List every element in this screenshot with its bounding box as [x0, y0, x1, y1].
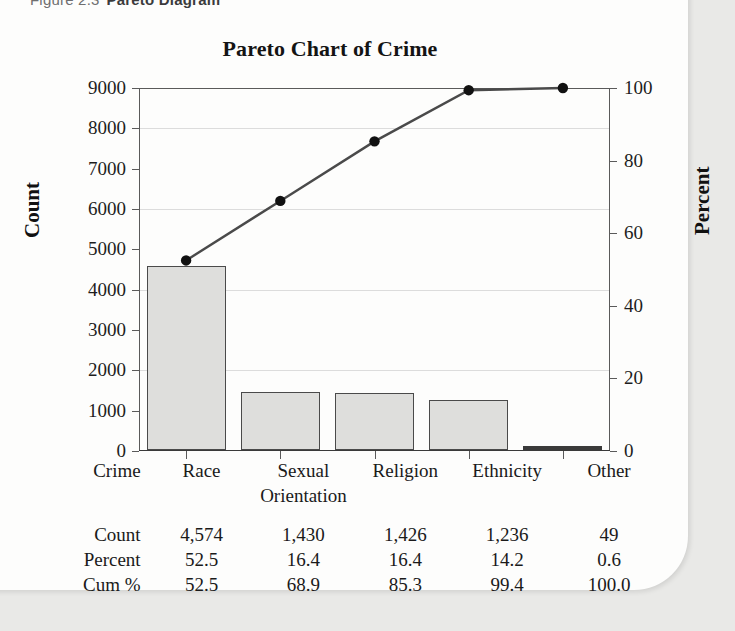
cumulative-marker — [181, 255, 191, 265]
y-tick-label-left: 9000 — [52, 77, 126, 99]
category-line1-4: Other — [558, 458, 660, 483]
y-axis-title-percent: Percent — [690, 167, 715, 235]
y-tick-right — [610, 378, 617, 379]
figure-title: Pareto Diagram — [107, 0, 221, 8]
row-label-percent: Percent — [0, 547, 151, 572]
table-row-count: Count 4,574 1,430 1,426 1,236 49 — [0, 522, 660, 547]
y-tick-left — [132, 370, 139, 371]
cumulative-line-path — [186, 88, 563, 260]
percent-cell-0: 52.5 — [151, 547, 253, 572]
cum-cell-0: 52.5 — [151, 572, 253, 597]
category-cell-3: Ethnicity — [456, 458, 558, 508]
y-tick-right — [610, 451, 617, 452]
cum-cell-4: 100.0 — [558, 572, 660, 597]
plot-area — [139, 88, 610, 451]
y-tick-label-left: 8000 — [52, 117, 126, 139]
category-line2-1: Orientation — [252, 483, 354, 508]
count-cell-0: 4,574 — [151, 522, 253, 547]
chart-title: Pareto Chart of Crime — [0, 36, 660, 62]
category-line1-2: Religion — [354, 458, 456, 483]
category-cell-4: Other — [558, 458, 660, 508]
y-tick-right — [610, 161, 617, 162]
count-cell-2: 1,426 — [354, 522, 456, 547]
percent-cell-3: 14.2 — [456, 547, 558, 572]
table-row-percent: Percent 52.5 16.4 16.4 14.2 0.6 — [0, 547, 660, 572]
cum-cell-3: 99.4 — [456, 572, 558, 597]
page-background: Figure 2.3Pareto Diagram Pareto Chart of… — [0, 0, 735, 631]
table-row-crime: Crime Race Sexual Orientation Religion E… — [0, 458, 660, 508]
cum-cell-2: 85.3 — [354, 572, 456, 597]
category-cell-2: Religion — [354, 458, 456, 508]
y-tick-label-right: 80 — [624, 150, 684, 172]
y-tick-label-right: 20 — [624, 367, 684, 389]
y-tick-label-left: 2000 — [52, 359, 126, 381]
percent-cell-1: 16.4 — [252, 547, 354, 572]
y-tick-right — [610, 88, 617, 89]
count-cell-1: 1,430 — [252, 522, 354, 547]
category-cell-1: Sexual Orientation — [252, 458, 354, 508]
percent-cell-4: 0.6 — [558, 547, 660, 572]
category-line1-3: Ethnicity — [456, 458, 558, 483]
y-tick-label-left: 4000 — [52, 279, 126, 301]
y-tick-left — [132, 128, 139, 129]
y-tick-label-right: 40 — [624, 295, 684, 317]
y-tick-label-left: 6000 — [52, 198, 126, 220]
count-cell-3: 1,236 — [456, 522, 558, 547]
cumulative-marker — [464, 85, 474, 95]
table-spacer-row — [0, 508, 660, 522]
y-tick-left — [132, 209, 139, 210]
data-table: Crime Race Sexual Orientation Religion E… — [0, 458, 660, 597]
summary-table: Crime Race Sexual Orientation Religion E… — [0, 458, 660, 597]
count-cell-4: 49 — [558, 522, 660, 547]
cumulative-marker — [558, 83, 568, 93]
y-tick-label-left: 1000 — [52, 400, 126, 422]
y-tick-left — [132, 411, 139, 412]
y-tick-label-right: 100 — [624, 77, 684, 99]
y-tick-left — [132, 249, 139, 250]
y-tick-right — [610, 233, 617, 234]
table-row-cum-percent: Cum % 52.5 68.9 85.3 99.4 100.0 — [0, 572, 660, 597]
y-tick-label-left: 5000 — [52, 238, 126, 260]
y-tick-label-left: 7000 — [52, 158, 126, 180]
cumulative-marker — [369, 136, 379, 146]
row-label-count: Count — [0, 522, 151, 547]
y-tick-left — [132, 330, 139, 331]
category-line1-1: Sexual — [252, 458, 354, 483]
y-axis-title-count: Count — [20, 182, 45, 238]
table-spacer-cell — [0, 508, 660, 522]
row-label-cum-percent: Cum % — [0, 572, 151, 597]
category-line1-0: Race — [151, 458, 253, 483]
cum-cell-1: 68.9 — [252, 572, 354, 597]
cumulative-percent-line — [139, 88, 610, 451]
y-tick-right — [610, 306, 617, 307]
percent-cell-2: 16.4 — [354, 547, 456, 572]
cumulative-marker — [275, 196, 285, 206]
y-tick-label-left: 3000 — [52, 319, 126, 341]
figure-caption: Figure 2.3Pareto Diagram — [30, 0, 220, 8]
y-tick-left — [132, 451, 139, 452]
category-cell-0: Race — [151, 458, 253, 508]
row-label-crime: Crime — [0, 458, 151, 508]
y-tick-label-right: 60 — [624, 222, 684, 244]
y-tick-left — [132, 88, 139, 89]
figure-number: Figure 2.3 — [30, 0, 100, 8]
y-tick-left — [132, 290, 139, 291]
y-tick-left — [132, 169, 139, 170]
